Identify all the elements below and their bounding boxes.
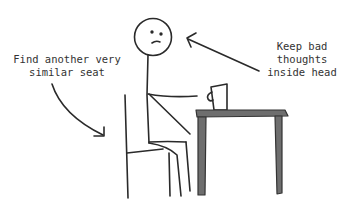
arrow-shaft <box>52 84 103 135</box>
cup-body <box>211 84 227 110</box>
annotation-line: inside head <box>262 66 342 79</box>
table-top <box>196 110 288 117</box>
comic-drawing <box>0 0 345 212</box>
head <box>135 19 172 56</box>
annotation-bad-thoughts: Keep bad thoughts inside head <box>262 40 342 79</box>
stick-figure <box>135 19 198 197</box>
annotation-line: thoughts <box>262 53 342 66</box>
arm-diagonal <box>149 94 190 134</box>
arrow-to-head <box>187 33 259 71</box>
annotation-line: Keep bad <box>262 40 342 53</box>
table-left-leg <box>198 117 206 195</box>
arm-to-cup <box>148 94 197 97</box>
table <box>196 110 288 195</box>
left-eye <box>151 31 153 33</box>
worried-mouth <box>152 41 160 43</box>
annotation-find-seat: Find another very similar seat <box>8 53 126 79</box>
front-leg <box>186 142 190 191</box>
torso <box>147 55 149 143</box>
annotation-line: similar seat <box>8 66 126 79</box>
chair-front-leg <box>169 153 170 196</box>
right-eye <box>160 33 162 35</box>
chair-seat <box>127 149 163 153</box>
cup <box>208 84 228 110</box>
back-leg <box>149 143 181 196</box>
thigh <box>149 142 186 143</box>
arrow-shaft <box>188 39 259 71</box>
chair-back <box>125 95 128 198</box>
arrow-to-chair <box>52 84 104 136</box>
table-right-leg <box>275 116 282 194</box>
annotation-line: Find another very <box>8 53 126 66</box>
